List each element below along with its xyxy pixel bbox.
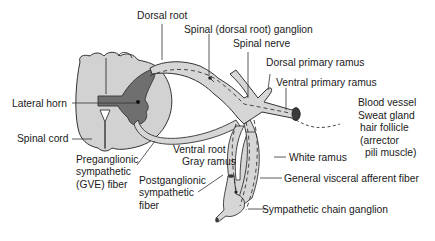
label-postganglionic-3: fiber	[139, 200, 160, 211]
label-ventral-primary-ramus: Ventral primary ramus	[276, 77, 377, 88]
label-postganglionic-1: Postganglionic	[139, 175, 206, 186]
label-lateral-horn: Lateral horn	[12, 98, 67, 109]
label-spinal-cord: Spinal cord	[17, 133, 69, 144]
label-target-1: Blood vessel	[358, 97, 416, 108]
label-gray-ramus: Gray ramus	[182, 156, 236, 167]
label-preganglionic-3: (GVE) fiber	[76, 179, 128, 190]
dorsal-root-and-spinal-nerve	[150, 62, 300, 124]
label-white-ramus: White ramus	[289, 152, 347, 163]
label-postganglionic-2: sympathetic	[139, 187, 194, 198]
label-spinal-nerve: Spinal nerve	[233, 38, 291, 49]
lateral-horn-neuron	[136, 100, 140, 104]
label-target-2: Sweat gland	[358, 110, 415, 121]
label-ventral-root: Ventral root	[173, 144, 226, 155]
label-target-4: (arrector	[360, 135, 399, 146]
label-preganglionic-1: Preganglionic	[76, 154, 138, 165]
label-spinal-ganglion: Spinal (dorsal root) ganglion	[184, 24, 313, 35]
label-chain-ganglion: Sympathetic chain ganglion	[262, 204, 388, 215]
spinal-nerve-diagram: Dorsal root Spinal (dorsal root) ganglio…	[0, 0, 435, 241]
label-target-5: pili muscle)	[365, 147, 417, 158]
label-gva-fiber: General visceral afferent fiber	[284, 173, 419, 184]
label-preganglionic-2: sympathetic	[76, 166, 131, 177]
blood-vessel-end	[292, 108, 300, 121]
label-dorsal-root: Dorsal root	[137, 10, 187, 21]
label-target-3: hair follicle	[360, 122, 409, 133]
label-dorsal-primary-ramus: Dorsal primary ramus	[266, 57, 364, 68]
